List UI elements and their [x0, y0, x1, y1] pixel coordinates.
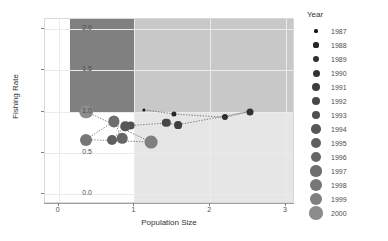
legend-item[interactable]: 1998 [305, 178, 385, 192]
data-point [108, 116, 119, 127]
y-axis-label: Fishing Rate [11, 57, 20, 137]
circle-icon [310, 165, 321, 176]
y-axis-tick-mark [41, 111, 44, 112]
legend-swatch [305, 152, 327, 163]
legend-items: 1987198819891990199119921993199419951996… [305, 24, 385, 220]
legend-swatch [305, 206, 327, 220]
legend-item[interactable]: 1989 [305, 52, 385, 66]
legend-item-label: 1994 [327, 126, 347, 133]
legend-item-label: 1991 [327, 84, 347, 91]
circle-icon [310, 179, 322, 191]
circle-icon [311, 138, 321, 148]
data-point [174, 121, 182, 129]
y-axis-tick-mark [41, 28, 44, 29]
legend-title: Year [307, 10, 385, 19]
circle-icon [311, 124, 320, 133]
data-point [171, 111, 176, 116]
legend-swatch [305, 111, 327, 120]
legend-item-label: 1998 [327, 182, 347, 189]
data-point [162, 119, 170, 127]
y-axis-tick-label: 0.5 [52, 148, 92, 155]
x-axis-tick-label: 0 [38, 206, 78, 213]
circle-icon [313, 42, 318, 47]
circle-icon [312, 111, 321, 120]
legend-item[interactable]: 1997 [305, 164, 385, 178]
x-axis-tick-mark [133, 203, 134, 206]
x-axis-tick-label: 3 [265, 206, 305, 213]
circle-icon [313, 70, 320, 77]
x-axis-line [44, 203, 294, 204]
y-axis-tick-mark [41, 69, 44, 70]
legend-item[interactable]: 1991 [305, 80, 385, 94]
y-axis-tick-mark [41, 193, 44, 194]
legend-swatch [305, 97, 327, 105]
circle-icon [312, 83, 320, 91]
legend-swatch [305, 124, 327, 133]
legend-item[interactable]: 2000 [305, 206, 385, 220]
legend-item-label: 1999 [327, 196, 347, 203]
x-axis-tick-mark [58, 203, 59, 206]
legend-item-label: 1996 [327, 154, 347, 161]
data-point [145, 136, 158, 149]
kobe-plot-figure: 0.00.51.01.52.00123 Fishing Rate Populat… [0, 0, 388, 241]
x-axis-tick-mark [209, 203, 210, 206]
legend-swatch [305, 193, 327, 206]
data-point [143, 108, 146, 111]
legend-item-label: 1990 [327, 70, 347, 77]
legend-item[interactable]: 1990 [305, 66, 385, 80]
y-axis-tick-label: 2.0 [52, 24, 92, 31]
legend-item[interactable]: 1988 [305, 38, 385, 52]
legend-swatch [305, 179, 327, 191]
legend-item-label: 1997 [327, 168, 347, 175]
legend-item[interactable]: 1996 [305, 150, 385, 164]
circle-icon [309, 206, 323, 220]
circle-icon [310, 193, 323, 206]
legend-item-label: 1992 [327, 98, 347, 105]
legend-item-label: 1993 [327, 112, 347, 119]
legend: Year 19871988198919901991199219931994199… [305, 10, 385, 220]
legend-swatch [305, 138, 327, 148]
legend-swatch [305, 56, 327, 62]
y-axis-tick-label: 1.0 [52, 107, 92, 114]
legend-item[interactable]: 1993 [305, 108, 385, 122]
legend-item-label: 1988 [327, 42, 347, 49]
legend-swatch [305, 83, 327, 91]
legend-item[interactable]: 1999 [305, 192, 385, 206]
circle-icon [314, 29, 317, 32]
data-point [80, 134, 92, 146]
x-axis-tick-label: 2 [189, 206, 229, 213]
circle-icon [312, 97, 320, 105]
legend-item-label: 1989 [327, 56, 347, 63]
legend-item[interactable]: 1995 [305, 136, 385, 150]
legend-item-label: 2000 [327, 210, 347, 217]
circle-icon [311, 152, 322, 163]
legend-item-label: 1995 [327, 140, 347, 147]
legend-swatch [305, 165, 327, 176]
data-point [222, 114, 228, 120]
data-point [117, 133, 128, 144]
legend-item-label: 1987 [327, 28, 347, 35]
legend-swatch [305, 42, 327, 47]
legend-swatch [305, 29, 327, 32]
x-axis-tick-label: 1 [113, 206, 153, 213]
legend-item[interactable]: 1987 [305, 24, 385, 38]
legend-swatch [305, 70, 327, 77]
data-point [246, 108, 253, 115]
y-axis-tick-label: 0.0 [52, 189, 92, 196]
x-axis-tick-mark [285, 203, 286, 206]
data-point [107, 135, 117, 145]
legend-item[interactable]: 1994 [305, 122, 385, 136]
x-axis-label: Population Size [44, 218, 294, 227]
legend-item[interactable]: 1992 [305, 94, 385, 108]
circle-icon [313, 56, 319, 62]
y-axis-tick-mark [41, 152, 44, 153]
y-axis-tick-label: 1.5 [52, 65, 92, 72]
